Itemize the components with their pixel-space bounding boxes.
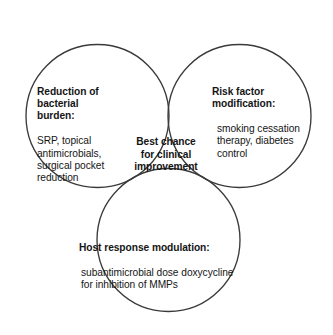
set-bottom-body: subantimicrobial dose doxycycline for in…: [79, 267, 265, 291]
set-right-body: smoking cessation therapy, diabetes cont…: [212, 123, 316, 159]
set-left-title: Reduction of bacterial burden:: [37, 86, 133, 122]
set-label-risk-factor-modification: Risk factor modification: smoking cessat…: [212, 74, 316, 172]
set-bottom-title: Host response modulation:: [79, 242, 265, 254]
intersection-label-best-chance-for-clinical-improvement: Best chance for clinical improvement: [118, 136, 214, 174]
set-label-host-response-modulation: Host response modulation: subantimicrobi…: [79, 230, 265, 304]
set-label-reduction-of-bacterial-burden: Reduction of bacterial burden: SRP, topi…: [37, 74, 133, 196]
venn-diagram: Reduction of bacterial burden: SRP, topi…: [0, 0, 333, 335]
set-right-title: Risk factor modification:: [212, 86, 316, 110]
